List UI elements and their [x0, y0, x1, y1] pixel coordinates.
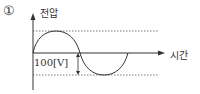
x-axis-arrow-icon — [158, 51, 165, 56]
y-axis-arrow-icon — [31, 13, 36, 20]
sine-wave-diagram — [0, 0, 200, 94]
amplitude-arrow-up-icon — [76, 53, 80, 57]
amplitude-arrow-down-icon — [76, 71, 80, 75]
